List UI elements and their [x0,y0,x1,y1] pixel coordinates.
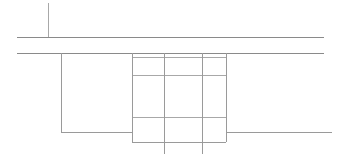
horizontal-lines-group [17,37,332,142]
technical-drawing-canvas [0,0,338,160]
line-drawing-svg [0,0,338,160]
vertical-lines-group [48,3,226,154]
